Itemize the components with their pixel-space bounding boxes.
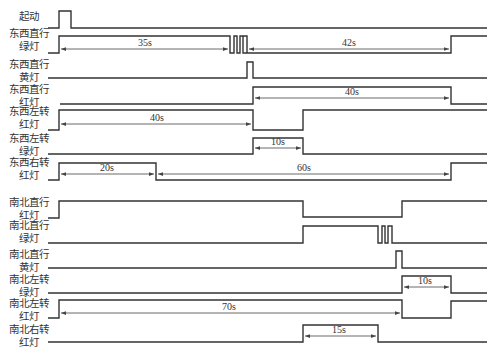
svg-text:10s: 10s xyxy=(271,136,285,147)
svg-text:10s: 10s xyxy=(418,275,432,286)
wave-ns-left-red xyxy=(48,300,487,318)
wave-ew-straight-red xyxy=(48,87,487,104)
svg-text:40s: 40s xyxy=(345,86,359,97)
wave-ew-left-green xyxy=(48,138,487,154)
svg-text:15s: 15s xyxy=(332,324,346,335)
svg-text:42s: 42s xyxy=(342,37,356,48)
wave-ns-straight-green xyxy=(48,226,487,243)
timing-diagram: 35s 42s 40s 40s 10s 20s 60s 10s 70s 15s xyxy=(0,0,493,353)
wave-start xyxy=(48,11,487,28)
svg-text:40s: 40s xyxy=(150,112,164,123)
wave-ns-straight-yellow xyxy=(48,251,487,268)
wave-ew-straight-yellow xyxy=(48,62,487,78)
svg-text:60s: 60s xyxy=(297,162,311,173)
svg-text:20s: 20s xyxy=(100,162,114,173)
wave-ns-right-red xyxy=(48,325,487,342)
wave-ew-left-red xyxy=(48,110,487,130)
svg-text:35s: 35s xyxy=(138,37,152,48)
wave-ew-straight-green xyxy=(48,36,487,53)
wave-ns-straight-red xyxy=(48,201,487,218)
svg-text:70s: 70s xyxy=(222,301,236,312)
